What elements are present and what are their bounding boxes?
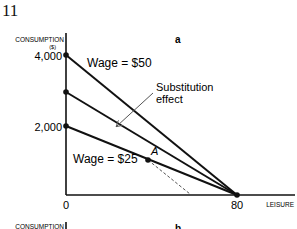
point-4000 <box>63 52 69 58</box>
substitution-label-line1: Substitution <box>156 81 213 93</box>
wage-25-label: Wage = $25 <box>73 152 138 166</box>
x-tick-0: 0 <box>63 199 69 211</box>
wage-50-line <box>66 55 237 195</box>
point-a <box>145 157 151 163</box>
budget-constraint-chart: CONSUMPTION ($) 4,000 2,000 0 80 LEISURE… <box>0 0 297 229</box>
point-80 <box>234 192 240 198</box>
panel-label-b: b <box>175 223 181 229</box>
next-y-axis-title: CONSUMPTION <box>15 223 64 229</box>
point-3000 <box>63 89 69 95</box>
dashed-extension-line <box>148 160 190 194</box>
wage-50-label: Wage = $50 <box>87 56 152 70</box>
x-tick-80: 80 <box>231 199 243 211</box>
panel-label-a: a <box>175 34 181 45</box>
y-axis-title: CONSUMPTION <box>15 36 64 43</box>
y-tick-2000: 2,000 <box>34 121 62 133</box>
y-tick-4000: 4,000 <box>34 50 62 62</box>
compensated-line <box>66 92 237 195</box>
point-2000 <box>63 123 69 129</box>
x-axis-title: LEISURE <box>266 201 294 208</box>
substitution-label-line2: effect <box>156 93 183 105</box>
point-a-label: A <box>150 145 158 157</box>
